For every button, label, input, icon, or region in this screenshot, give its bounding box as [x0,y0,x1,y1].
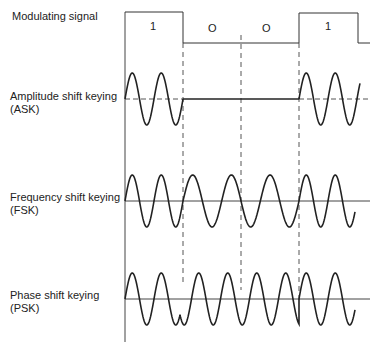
bit-boundaries [183,35,299,300]
bit-label-2: O [208,22,217,34]
bit-label-3: O [262,22,271,34]
bit-label-1: 1 [150,20,156,32]
modulation-diagram: 1 O O 1 [0,0,377,356]
bit-label-4: 1 [325,20,331,32]
modulating-signal-waveform [125,12,370,43]
